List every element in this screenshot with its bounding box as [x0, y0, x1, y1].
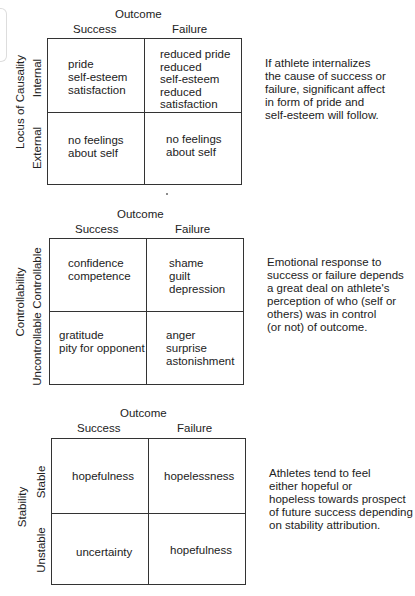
cell-external-failure: no feelings about self: [166, 133, 222, 159]
row-label-uncontrollable: Uncontrollable: [31, 307, 43, 391]
grid-divider-horizontal: [52, 513, 245, 514]
failure-column-header: Failure: [172, 23, 207, 35]
cell-unstable-success: uncertainty: [76, 546, 132, 559]
cell-controllable-success: confidence competence: [68, 257, 131, 283]
row-label-internal: Internal: [31, 53, 43, 103]
failure-column-header: Failure: [175, 223, 210, 235]
cell-stable-failure: hopelessness: [164, 470, 234, 483]
cell-internal-success: pride self-esteem satisfaction: [68, 58, 127, 97]
failure-column-header: Failure: [177, 422, 212, 434]
grid-divider-vertical: [148, 439, 149, 584]
outcome-header: Outcome: [115, 8, 162, 20]
success-column-header: Success: [73, 23, 116, 35]
outcome-header: Outcome: [120, 407, 167, 419]
explanation-note: Emotional response to success or failure…: [267, 256, 404, 334]
row-label-external: External: [31, 123, 43, 173]
row-label-unstable: Unstable: [35, 525, 47, 575]
locus-of-causality-panel: Outcome Success Failure Locus of Causali…: [0, 0, 415, 200]
row-label-stable: Stable: [35, 457, 47, 507]
stray-dot: [166, 193, 168, 195]
grid-divider-horizontal: [50, 311, 243, 312]
explanation-note: If athlete internalizes the cause of suc…: [265, 57, 386, 122]
axis-label-controllability: Controllability: [14, 252, 26, 352]
cell-uncontrollable-success: gratitude pity for opponent: [59, 329, 145, 355]
attribution-grid: hopefulness hopelessness uncertainty hop…: [51, 438, 246, 585]
row-label-controllable: Controllable: [31, 238, 43, 318]
cell-uncontrollable-failure: anger surprise astonishment: [166, 329, 234, 368]
outcome-header: Outcome: [117, 208, 164, 220]
controllability-panel: Outcome Success Failure Controllability …: [0, 200, 415, 400]
cell-external-success: no feelings about self: [68, 134, 124, 160]
attribution-grid: confidence competence shame guilt depres…: [49, 238, 244, 385]
cell-internal-failure: reduced pride reduced self-esteem reduce…: [160, 48, 230, 111]
success-column-header: Success: [75, 223, 118, 235]
stability-panel: Outcome Success Failure Stability Stable…: [0, 400, 415, 596]
success-column-header: Success: [77, 422, 120, 434]
cell-stable-success: hopefulness: [72, 470, 134, 483]
cell-controllable-failure: shame guilt depression: [169, 257, 225, 296]
cell-unstable-failure: hopefulness: [170, 544, 232, 557]
grid-divider-horizontal: [48, 112, 241, 113]
axis-label-stability: Stability: [16, 457, 28, 557]
attribution-grid: pride self-esteem satisfaction reduced p…: [47, 38, 242, 185]
axis-label-locus-of-causality: Locus of Causality: [14, 52, 26, 152]
explanation-note: Athletes tend to feel either hopeful or …: [269, 467, 413, 532]
